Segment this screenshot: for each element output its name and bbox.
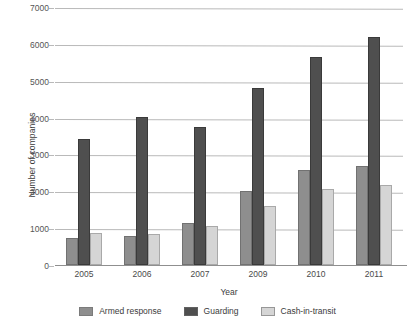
legend-label: Armed response	[99, 306, 161, 316]
y-tick-label: 0	[44, 262, 49, 271]
legend-item: Cash-in-transit	[261, 306, 336, 316]
y-tick-mark	[49, 45, 54, 46]
y-tick-mark	[49, 229, 54, 230]
bar	[194, 127, 206, 265]
bar	[206, 226, 218, 265]
y-tick-mark	[49, 266, 54, 267]
bar	[182, 223, 194, 265]
y-tick-label: 5000	[30, 77, 49, 86]
y-tick-label: 3000	[30, 151, 49, 160]
bar-group	[298, 8, 334, 265]
x-tick-label: 2006	[122, 270, 162, 284]
bar-group	[66, 8, 102, 265]
y-tick-label: 4000	[30, 114, 49, 123]
y-tick-label: 2000	[30, 188, 49, 197]
legend-item: Armed response	[79, 306, 161, 316]
bar-group	[240, 8, 276, 265]
legend-swatch	[261, 307, 275, 316]
x-axis-line	[55, 265, 407, 266]
x-axis-tick-labels: 200520062007200920102011	[55, 270, 403, 284]
x-tick-label: 2007	[180, 270, 220, 284]
y-tick-mark	[49, 119, 54, 120]
legend-label: Cash-in-transit	[281, 306, 336, 316]
bar	[90, 233, 102, 265]
bar	[124, 236, 136, 265]
bar	[310, 57, 322, 265]
bar	[264, 206, 276, 265]
bar	[240, 191, 252, 265]
bar-group	[356, 8, 392, 265]
bar	[148, 234, 160, 265]
bar	[298, 170, 310, 265]
bar-groups	[55, 8, 403, 265]
x-tick-label: 2005	[64, 270, 104, 284]
y-tick-label: 6000	[30, 41, 49, 50]
bar	[252, 88, 264, 265]
y-tick-label: 7000	[30, 4, 49, 13]
bar	[322, 189, 334, 265]
bar	[380, 185, 392, 265]
x-tick-label: 2010	[296, 270, 336, 284]
bar	[356, 166, 368, 266]
x-axis-title: Year	[55, 287, 403, 297]
y-tick-mark	[49, 82, 54, 83]
x-tick-label: 2009	[238, 270, 278, 284]
legend-swatch	[79, 307, 93, 316]
bar-chart: Number of companies 01000200030004000500…	[0, 0, 415, 325]
legend-label: Guarding	[204, 306, 239, 316]
x-tick-label: 2011	[354, 270, 394, 284]
legend-swatch	[184, 307, 198, 316]
bar	[136, 117, 148, 265]
chart-legend: Armed responseGuardingCash-in-transit	[0, 303, 415, 319]
y-tick-mark	[49, 192, 54, 193]
y-tick-label: 1000	[30, 225, 49, 234]
bar	[78, 139, 90, 265]
y-tick-mark	[49, 155, 54, 156]
bar	[66, 238, 78, 265]
plot-area: 01000200030004000500060007000	[55, 8, 403, 266]
bar	[368, 37, 380, 266]
bar-group	[182, 8, 218, 265]
y-tick-mark	[49, 8, 54, 9]
bar-group	[124, 8, 160, 265]
legend-item: Guarding	[184, 306, 239, 316]
